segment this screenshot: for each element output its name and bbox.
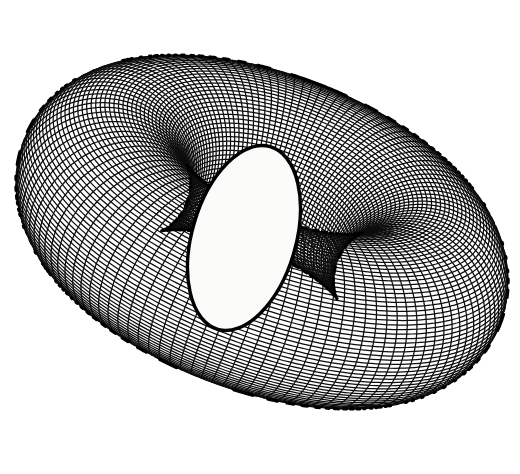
torus-wireframe-figure [0,0,520,474]
figure-root [0,0,520,474]
